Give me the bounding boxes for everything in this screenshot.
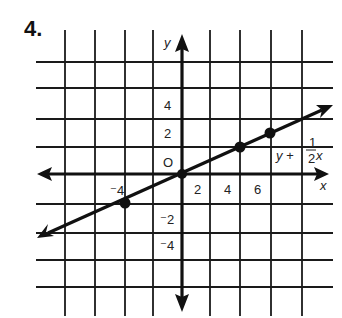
y-tick-label-neg2: ⁻2 xyxy=(160,212,174,227)
x-tick-label-2: 2 xyxy=(194,182,201,197)
y-tick-label-2: 2 xyxy=(164,126,171,141)
y-tick-label-neg4: ⁻4 xyxy=(160,238,174,253)
point-origin xyxy=(177,169,187,179)
y-tick-label-4: 4 xyxy=(164,98,171,113)
coordinate-plane: y x O ⁻4 2 4 6 4 2 ⁻2 ⁻4 y + 1 2 x xyxy=(0,0,342,318)
x-tick-label-4: 4 xyxy=(224,182,231,197)
equation-label: y + 1 2 x xyxy=(275,135,323,166)
point-6-3 xyxy=(265,128,276,139)
point-neg4-neg2 xyxy=(120,198,131,209)
x-axis-label: x xyxy=(319,178,327,193)
x-tick-label-neg4: ⁻4 xyxy=(110,183,124,198)
y-axis-label: y xyxy=(163,35,172,50)
equation-lhs: y + xyxy=(275,148,294,163)
point-4-2 xyxy=(235,142,246,153)
x-tick-label-6: 6 xyxy=(254,182,261,197)
equation-fraction-denominator: 2 xyxy=(308,151,315,166)
equation-variable: x xyxy=(315,148,323,163)
origin-label: O xyxy=(163,155,173,170)
